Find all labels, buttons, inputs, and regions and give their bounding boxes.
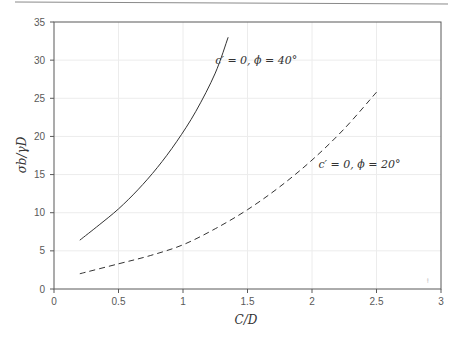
x-tick-label: 3 (438, 296, 444, 307)
x-tick-label: 2 (309, 296, 315, 307)
y-tick-label: 15 (34, 169, 46, 180)
scan-artifact: ⱡ (427, 277, 429, 284)
y-tick-label: 0 (39, 284, 45, 295)
y-tick-label: 20 (34, 131, 46, 142)
series-phi-40-solid (80, 37, 228, 240)
chart: 00.511.522.53 05101520253035 c′ = 0, ϕ =… (0, 0, 461, 342)
x-tick-label: 2.5 (370, 296, 384, 307)
y-tick-label: 5 (39, 245, 45, 256)
page-top-rule (15, 2, 448, 4)
y-tick-label: 30 (34, 55, 46, 66)
y-tick-label: 10 (34, 207, 46, 218)
x-tick-label: 1 (180, 296, 186, 307)
x-tick-labels: 00.511.522.53 (51, 296, 444, 307)
y-tick-labels: 05101520253035 (34, 17, 46, 295)
curve-annotations: c′ = 0, ϕ = 40°c′ = 0, ϕ = 20° (215, 54, 400, 172)
x-tick-label: 0 (51, 296, 57, 307)
x-tick-label: 1.5 (241, 296, 255, 307)
data-series (80, 37, 377, 273)
series-phi-20-dashed (80, 92, 377, 274)
y-tick-label: 35 (34, 17, 46, 28)
x-tick-label: 0.5 (112, 296, 126, 307)
y-axis-title: σb/γD (15, 136, 29, 173)
y-tick-label: 25 (34, 93, 46, 104)
curve-annotation: c′ = 0, ϕ = 40° (215, 54, 297, 67)
x-axis-title: C/D (235, 313, 258, 327)
curve-annotation: c′ = 0, ϕ = 20° (318, 158, 400, 171)
